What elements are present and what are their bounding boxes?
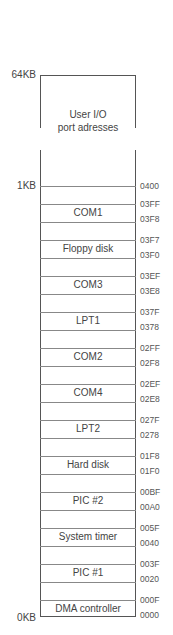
region-divider	[40, 384, 136, 385]
region-label: Hard disk	[40, 459, 136, 471]
region-label: COM4	[40, 387, 136, 399]
size-label-64kb: 64KB	[0, 69, 36, 81]
region-divider	[40, 474, 136, 475]
region-divider	[40, 402, 136, 403]
region-divider	[40, 366, 136, 367]
address-low: 03E8	[140, 286, 160, 296]
region-divider	[40, 600, 136, 601]
region-label: PIC #2	[40, 495, 136, 507]
address-low: 03F8	[140, 214, 159, 224]
region-label: COM3	[40, 279, 136, 291]
region-divider	[40, 492, 136, 493]
region-divider	[40, 438, 136, 439]
region-label: COM1	[40, 207, 136, 219]
region-divider	[40, 420, 136, 421]
region-divider	[40, 330, 136, 331]
user-io-line1: User I/O	[40, 108, 136, 121]
region-divider	[40, 348, 136, 349]
region-divider	[40, 204, 136, 205]
address-high: 03EF	[140, 271, 160, 281]
address-low: 0378	[140, 322, 159, 332]
region-divider	[40, 294, 136, 295]
address-low: 02F8	[140, 358, 159, 368]
address-high: 027F	[140, 415, 159, 425]
address-high: 02EF	[140, 379, 160, 389]
region-divider	[40, 276, 136, 277]
address-high: 02FF	[140, 343, 160, 353]
size-label-0kb: 0KB	[0, 612, 36, 624]
region-label: DMA controller	[40, 603, 136, 615]
address-0400: 0400	[140, 181, 159, 191]
address-low: 02E8	[140, 394, 160, 404]
region-divider	[40, 582, 136, 583]
address-high: 00BF	[140, 487, 160, 497]
address-high: 03F7	[140, 235, 159, 245]
address-low: 03F0	[140, 250, 159, 260]
address-high: 003F	[140, 559, 159, 569]
address-high: 03FF	[140, 199, 160, 209]
user-io-line2: port adresses	[40, 121, 136, 134]
region-divider	[40, 222, 136, 223]
region-label: COM2	[40, 351, 136, 363]
divider-1kb	[40, 186, 136, 187]
region-label: PIC #1	[40, 567, 136, 579]
region-divider	[40, 564, 136, 565]
address-low: 00A0	[140, 502, 160, 512]
address-low: 0020	[140, 574, 159, 584]
address-low: 01F0	[140, 466, 159, 476]
address-high: 037F	[140, 307, 159, 317]
address-low: 0278	[140, 430, 159, 440]
size-label-1kb: 1KB	[0, 180, 36, 192]
address-low: 0040	[140, 538, 159, 548]
region-divider	[40, 456, 136, 457]
region-label: LPT2	[40, 423, 136, 435]
region-divider	[40, 258, 136, 259]
region-label: LPT1	[40, 315, 136, 327]
address-high: 01F8	[140, 451, 159, 461]
address-low: 0000	[140, 610, 159, 620]
region-divider	[40, 312, 136, 313]
address-high: 005F	[140, 523, 159, 533]
region-label: Floppy disk	[40, 243, 136, 255]
region-divider	[40, 546, 136, 547]
region-divider	[40, 528, 136, 529]
user-io-region-label: User I/O port adresses	[40, 108, 136, 134]
region-divider	[40, 240, 136, 241]
region-label: System timer	[40, 531, 136, 543]
address-high: 000F	[140, 595, 159, 605]
region-divider	[40, 510, 136, 511]
